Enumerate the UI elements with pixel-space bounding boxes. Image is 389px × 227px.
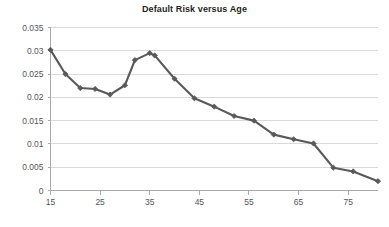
x-tick-marks-group <box>51 191 349 195</box>
data-point-marker <box>291 137 296 142</box>
y-axis-tick-label: 0.015 <box>0 116 44 126</box>
y-axis-tick-label: 0.025 <box>0 69 44 79</box>
x-axis-tick-label: 15 <box>46 197 55 207</box>
y-axis-tick-label: 0 <box>0 186 44 196</box>
data-line <box>51 50 379 181</box>
x-axis-tick-label: 65 <box>294 197 303 207</box>
y-axis-tick-label: 0.02 <box>0 92 44 102</box>
x-axis-tick-label: 55 <box>244 197 253 207</box>
y-axis-tick-label: 0.01 <box>0 139 44 149</box>
data-line-group <box>51 50 379 181</box>
x-axis-tick-label: 75 <box>343 197 352 207</box>
x-axis-tick-label: 25 <box>95 197 104 207</box>
x-axis-tick-label: 45 <box>195 197 204 207</box>
y-axis-tick-label: 0.03 <box>0 46 44 56</box>
y-axis-tick-label: 0.005 <box>0 162 44 172</box>
chart-container: Default Risk versus Age 00.0050.010.0150… <box>0 0 389 227</box>
chart-plot-area <box>0 0 389 227</box>
data-point-marker <box>93 86 98 91</box>
y-axis-tick-label: 0.035 <box>0 23 44 33</box>
x-axis-tick-label: 35 <box>145 197 154 207</box>
